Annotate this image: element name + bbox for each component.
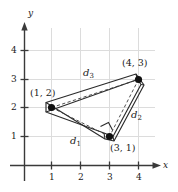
point-label-b: (4, 3) [122, 58, 148, 68]
y-tick-label-1: 1 [11, 132, 17, 141]
right-angle-marker-icon [101, 123, 113, 131]
point-label-a: (1, 2) [30, 88, 56, 98]
x-tick-label-1: 1 [49, 173, 55, 182]
triangle-distance-figure: y x 4 3 2 1 1 2 3 4 (1, 2) (4, 3) (3, 1)… [0, 0, 178, 192]
segment-label-d2: d2 [131, 110, 142, 120]
point-label-c: (3, 1) [110, 143, 136, 153]
segment-label-d1: d1 [70, 136, 81, 146]
y-axis-label: y [28, 9, 33, 18]
data-point-b [135, 76, 142, 83]
segment-label-d1-sub: 1 [76, 140, 80, 148]
segment-label-d3-sub: 3 [89, 72, 93, 80]
x-tick-label-4: 4 [136, 173, 142, 182]
coordinate-plot [0, 0, 178, 192]
x-axis-label: x [163, 161, 168, 170]
data-point-c [106, 133, 113, 140]
data-point-a [48, 104, 55, 111]
segment-label-d2-sub: 2 [137, 114, 141, 122]
x-tick-label-2: 2 [78, 173, 84, 182]
x-tick-label-3: 3 [107, 173, 113, 182]
segment-label-d3: d3 [83, 68, 94, 78]
y-tick-label-2: 2 [11, 103, 17, 112]
y-tick-label-3: 3 [11, 75, 17, 84]
y-axis [21, 22, 27, 181]
y-tick-label-4: 4 [11, 46, 17, 55]
